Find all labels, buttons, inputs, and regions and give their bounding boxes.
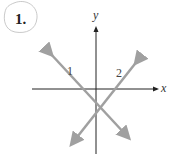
x-axis-label: x	[160, 81, 167, 95]
y-axis-label: y	[92, 8, 99, 22]
problem-number: 1.	[15, 11, 27, 27]
coordinate-plane: 1. x y 1 2	[0, 0, 173, 154]
line-1-label: 1	[67, 64, 73, 78]
line-2	[74, 60, 138, 141]
diagram-canvas: 1. x y 1 2	[0, 0, 173, 154]
line-2-label: 2	[116, 66, 122, 80]
